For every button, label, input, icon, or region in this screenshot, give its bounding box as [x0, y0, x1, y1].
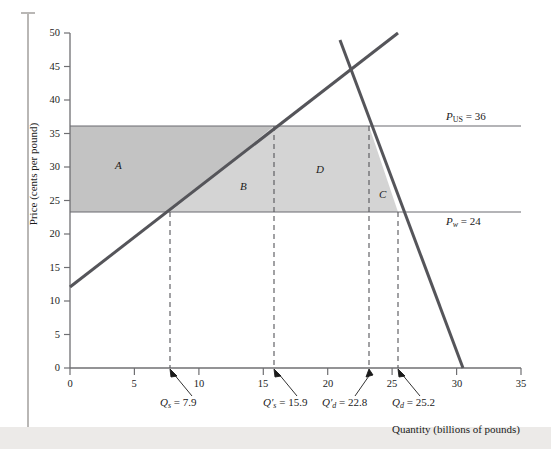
quantity-label-qd-value: = 25.2 [407, 396, 435, 408]
price-label-us-symbol: P [446, 110, 453, 122]
price-label-us-value: = 36 [466, 110, 486, 122]
y-tick-35: 35 [36, 128, 60, 139]
region-label-b: B [240, 180, 247, 192]
quantity-label-qs-prime-value: = 15.9 [279, 396, 307, 408]
y-tick-40: 40 [36, 94, 60, 105]
price-label-world-symbol: P [446, 215, 453, 227]
quantity-label-qd-prime-symbol: Q [322, 396, 330, 408]
x-axis-ticks [70, 368, 521, 375]
price-label-us-subscript: US [453, 115, 463, 124]
y-tick-50: 50 [36, 27, 60, 38]
x-tick-5: 5 [122, 378, 146, 389]
x-tick-30: 30 [445, 378, 469, 389]
y-tick-30: 30 [36, 161, 60, 172]
quantity-label-qd-subscript: d [400, 401, 404, 410]
x-tick-10: 10 [187, 378, 211, 389]
y-axis-title: Price (cents per pound) [27, 94, 39, 254]
quantity-label-qs-symbol: Q [160, 396, 168, 408]
y-tick-0: 0 [36, 362, 60, 373]
x-tick-35: 35 [509, 378, 533, 389]
quantity-label-qd-prime-value: = 22.8 [339, 396, 367, 408]
quantity-label-qd-symbol: Q [392, 396, 400, 408]
x-tick-15: 15 [251, 378, 275, 389]
quantity-label-qd-prime-subscript: d [332, 401, 336, 410]
price-label-us: PUS = 36 [446, 110, 486, 124]
region-label-d: D [316, 163, 324, 175]
quantity-label-qs-subscript: s [168, 401, 171, 410]
y-tick-10: 10 [36, 295, 60, 306]
x-axis-title: Quantity (billions of pounds) [392, 423, 520, 435]
price-label-world-value: = 24 [461, 215, 481, 227]
y-tick-25: 25 [36, 195, 60, 206]
x-tick-0: 0 [58, 378, 82, 389]
quantity-label-qs-prime: Q′s = 15.9 [263, 396, 307, 410]
price-label-world-subscript: w [453, 220, 458, 229]
region-label-c: C [379, 188, 386, 200]
x-tick-20: 20 [316, 378, 340, 389]
quantity-label-qs-prime-symbol: Q [263, 396, 271, 408]
price-label-world: Pw = 24 [446, 215, 481, 229]
region-label-a: A [115, 159, 122, 171]
quantity-label-qs-value: = 7.9 [174, 396, 197, 408]
quantity-label-qd: Qd = 25.2 [392, 396, 435, 410]
figure-page: 0 5 10 15 20 25 30 35 40 45 50 0 5 10 15… [0, 0, 551, 449]
y-tick-45: 45 [36, 61, 60, 72]
x-tick-25: 25 [380, 378, 404, 389]
quantity-label-qs-prime-subscript: s [273, 401, 276, 410]
y-tick-15: 15 [36, 262, 60, 273]
quantity-label-qs: Qs = 7.9 [160, 396, 197, 410]
quantity-label-qd-prime: Q′d = 22.8 [322, 396, 367, 410]
y-axis-ticks [64, 33, 70, 368]
y-tick-5: 5 [36, 329, 60, 340]
y-tick-20: 20 [36, 228, 60, 239]
